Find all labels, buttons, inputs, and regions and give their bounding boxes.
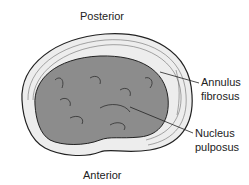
annulus-label-line2: fibrosus (201, 90, 240, 102)
nucleus-pulposus-shape (35, 56, 168, 145)
nucleus-label-line1: Nucleus (195, 127, 235, 139)
posterior-label: Posterior (80, 10, 124, 22)
nucleus-label-line2: pulposus (195, 141, 239, 153)
anterior-label: Anterior (83, 169, 122, 181)
annulus-label-line1: Annulus (201, 76, 241, 88)
